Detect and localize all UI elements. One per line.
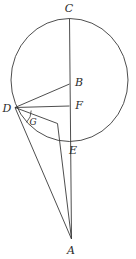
point-label-F: F xyxy=(75,100,83,111)
segment-DF xyxy=(15,106,70,108)
segment-DA xyxy=(15,108,72,240)
point-label-C: C xyxy=(65,3,73,14)
geometry-canvas xyxy=(0,0,136,259)
geometry-figure: C B D F G E A xyxy=(0,0,136,259)
point-label-G: G xyxy=(29,117,36,128)
point-label-B: B xyxy=(75,77,83,88)
point-label-E: E xyxy=(69,145,77,156)
point-label-A: A xyxy=(67,245,75,256)
segment-DB xyxy=(15,84,70,108)
segment-CA xyxy=(70,19,72,240)
point-label-D: D xyxy=(3,103,12,114)
